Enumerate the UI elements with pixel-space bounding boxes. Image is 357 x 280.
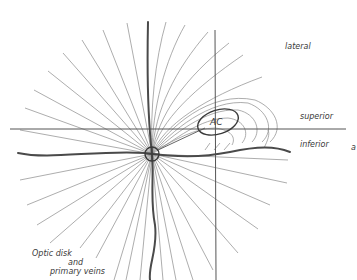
optic-disk (145, 147, 159, 161)
radial-lines-upper-left (20, 23, 152, 154)
label-ac: AC (210, 118, 222, 127)
label-primary-veins: primary veins (50, 268, 105, 276)
label-superior: superior (300, 113, 333, 121)
radial-lines-lower-right (152, 154, 288, 280)
label-and: and (68, 259, 83, 267)
label-optic-disk: Optic disk (32, 250, 72, 258)
label-lateral: lateral (285, 43, 311, 51)
label-inferior: inferior (300, 141, 329, 149)
retina-vessel-diagram: lateral superior inferior AC Optic disk … (0, 0, 357, 280)
arcuate-lines (152, 22, 278, 154)
radial-lines-lower-left (20, 154, 152, 280)
label-edge-fragment: a (351, 144, 356, 152)
